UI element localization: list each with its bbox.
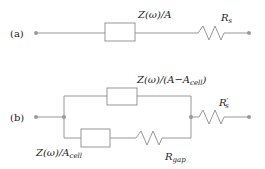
resistor-b-series <box>199 110 224 124</box>
impedance-box-b-top <box>107 88 137 105</box>
circuit-diagram: (a) Z(ω)/A Rs (b) Z(ω)/(A−Acell) Z(ω)/Ac… <box>0 0 265 169</box>
impedance-box-b-bottom <box>81 129 110 147</box>
impedance-label-a: Z(ω)/A <box>137 9 172 20</box>
circuit-a-tag: (a) <box>10 28 24 39</box>
node-b-right <box>189 115 193 119</box>
resistor-gap <box>136 131 162 145</box>
terminal-b-left <box>34 115 38 119</box>
circuit-b-tag: (b) <box>10 112 24 123</box>
series-resistor-label-b: R′s <box>218 96 229 110</box>
resistor-label-a: Rs <box>220 12 233 25</box>
impedance-box-a <box>105 23 135 41</box>
impedance-label-b-top: Z(ω)/(A−Acell) <box>136 74 207 87</box>
resistor-a <box>198 26 224 40</box>
node-b-left <box>62 115 66 119</box>
gap-resistor-label: Rgap <box>164 151 186 164</box>
terminal-b-right <box>247 115 251 119</box>
terminal-a-left <box>34 31 38 35</box>
terminal-a-right <box>247 31 251 35</box>
impedance-label-b-bottom: Z(ω)/Acell <box>35 147 82 160</box>
